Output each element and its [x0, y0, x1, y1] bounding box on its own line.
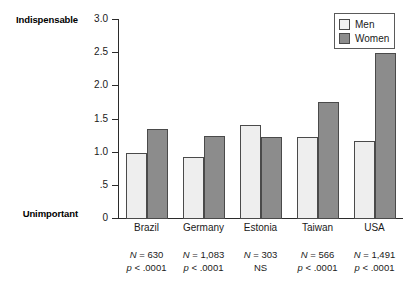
- y-axis-low-label: Unimportant: [0, 208, 78, 219]
- bar-brazil-men: [126, 153, 147, 219]
- y-tick-label-holder: 3.0: [76, 19, 108, 20]
- p-value-label: p < .0001: [341, 261, 408, 274]
- bar-estonia-women: [261, 137, 282, 219]
- y-tick-label: 2.0: [76, 79, 108, 90]
- bar-germany-women: [204, 136, 225, 219]
- bar-germany-men: [183, 157, 204, 219]
- y-tick-label: 1.5: [76, 113, 108, 124]
- men-swatch-icon: [339, 19, 350, 30]
- y-tick-label: 0: [76, 212, 108, 223]
- y-tick-label-holder: .5: [76, 185, 108, 186]
- x-axis-label-germany: Germany: [175, 222, 232, 233]
- y-tick-label: 2.5: [76, 46, 108, 57]
- women-swatch-icon: [339, 33, 350, 44]
- bar-taiwan-men: [297, 137, 318, 219]
- legend-item-men: Men: [339, 17, 389, 31]
- y-tick-label-holder: 1.5: [76, 119, 108, 120]
- y-tick-label-holder: 2.0: [76, 85, 108, 86]
- y-axis-high-label: Indispensable: [0, 14, 78, 25]
- bar-usa-women: [375, 53, 396, 219]
- x-axis-label-brazil: Brazil: [118, 222, 175, 233]
- y-tick-label-holder: 2.5: [76, 52, 108, 53]
- bar-chart-figure: Indispensable Unimportant 3.02.52.01.51.…: [0, 0, 415, 288]
- bar-taiwan-women: [318, 102, 339, 219]
- stats-usa: N = 1,491p < .0001: [341, 248, 408, 274]
- legend-label-men: Men: [355, 19, 374, 30]
- x-axis-label-estonia: Estonia: [232, 222, 289, 233]
- y-tick-label-holder: 0: [76, 218, 108, 219]
- y-tick-label-holder: 1.0: [76, 152, 108, 153]
- y-tick-label: 1.0: [76, 146, 108, 157]
- legend-label-women: Women: [355, 33, 389, 44]
- x-axis-label-usa: USA: [346, 222, 403, 233]
- sample-size-label: N = 1,491: [341, 248, 408, 261]
- bar-estonia-men: [240, 125, 261, 219]
- x-axis-label-taiwan: Taiwan: [289, 222, 346, 233]
- bars-layer: [118, 19, 403, 219]
- y-tick-label: 3.0: [76, 13, 108, 24]
- chart-legend: Men Women: [334, 13, 395, 49]
- y-tick-label: .5: [76, 179, 108, 190]
- bar-usa-men: [354, 141, 375, 219]
- bar-brazil-women: [147, 129, 168, 219]
- legend-item-women: Women: [339, 31, 389, 45]
